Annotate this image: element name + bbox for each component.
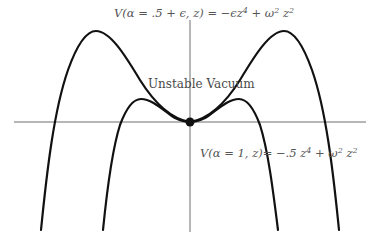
bottom-curve-formula-label: V(α = 1, z)= −.5 z4 + ω2 z2 xyxy=(200,147,358,160)
top-formula-term-c: z xyxy=(279,6,289,20)
bottom-formula-eq: = xyxy=(263,146,276,160)
top-formula-term-b: + ω xyxy=(248,6,274,20)
bottom-formula-lhs: V(α = 1, z) xyxy=(200,146,263,160)
bottom-formula-term-a: −.5 z xyxy=(276,146,306,160)
top-curve-formula-label: V(α = .5 + ϵ, z) = −ϵz4 + ω2 z2 xyxy=(114,7,294,20)
origin-point-marker xyxy=(186,118,195,127)
top-formula-exp-c: 2 xyxy=(289,6,294,15)
bottom-formula-exp-c: 2 xyxy=(353,146,358,155)
potential-diagram xyxy=(0,0,375,245)
bottom-formula-term-c: z xyxy=(343,146,353,160)
unstable-vacuum-label: Unstable Vacuum xyxy=(148,78,255,90)
top-formula-term-a: −ϵz xyxy=(221,6,243,20)
bottom-formula-term-b: + ω xyxy=(311,146,337,160)
top-formula-lhs: V(α = .5 + ϵ, z) xyxy=(114,6,204,20)
top-formula-eq: = xyxy=(204,6,221,20)
